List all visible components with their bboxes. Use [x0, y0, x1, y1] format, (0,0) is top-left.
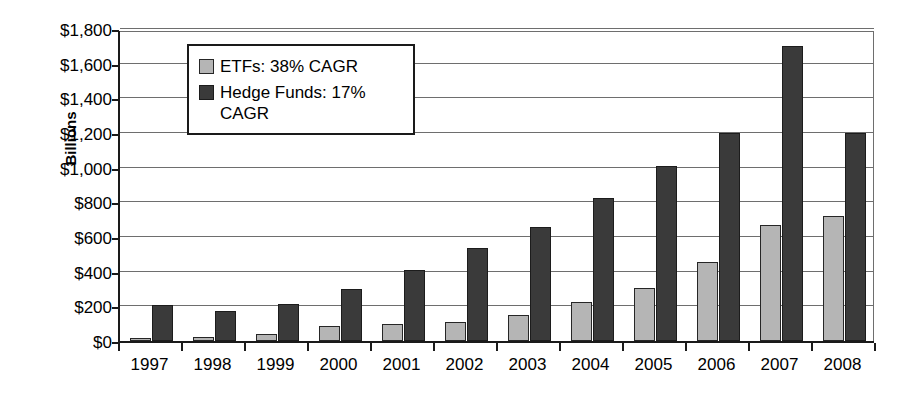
- y-axis-tick-label: $1,600: [16, 56, 112, 76]
- y-axis-tick-label: $1,400: [16, 90, 112, 110]
- x-axis-tick-mark: [748, 343, 750, 351]
- x-axis-tick-mark: [181, 343, 183, 351]
- bar-etfs: [508, 315, 529, 341]
- bar-etfs: [760, 225, 781, 341]
- legend-label-etfs: ETFs: 38% CAGR: [220, 56, 358, 77]
- bar-group: [120, 31, 183, 341]
- bar-hedge-funds: [782, 46, 803, 341]
- legend-label-hedge-funds: Hedge Funds: 17% CAGR: [220, 82, 403, 124]
- bar-etfs: [130, 338, 151, 341]
- bar-hedge-funds: [341, 289, 362, 341]
- bar-group: [624, 31, 687, 341]
- bar-hedge-funds: [152, 305, 173, 341]
- x-axis-tick-label: 2002: [446, 355, 484, 375]
- x-axis-tick-mark: [496, 343, 498, 351]
- y-axis-tick-label: $0: [16, 333, 112, 353]
- x-axis-tick-label: 2005: [635, 355, 673, 375]
- bar-etfs: [256, 334, 277, 341]
- y-axis-tick-label: $800: [16, 194, 112, 214]
- legend-item: Hedge Funds: 17% CAGR: [199, 82, 403, 124]
- bar-hedge-funds: [656, 166, 677, 341]
- bar-hedge-funds: [467, 248, 488, 341]
- bar-group: [561, 31, 624, 341]
- y-axis-tick-label: $1,800: [16, 21, 112, 41]
- y-axis-tick-label: $600: [16, 229, 112, 249]
- x-axis-tick-mark: [244, 343, 246, 351]
- bar-etfs: [445, 322, 466, 341]
- bar-hedge-funds: [278, 304, 299, 341]
- legend-item: ETFs: 38% CAGR: [199, 56, 403, 77]
- x-axis-tick-label: 1999: [257, 355, 295, 375]
- bar-chart: Billions $1,800$1,600$1,400$1,200$1,000$…: [0, 0, 901, 403]
- bar-group: [498, 31, 561, 341]
- bar-hedge-funds: [593, 198, 614, 341]
- x-axis-tick-label: 1997: [131, 355, 169, 375]
- x-axis-tick-label: 2001: [383, 355, 421, 375]
- bar-etfs: [193, 337, 214, 341]
- x-axis-tick-mark: [433, 343, 435, 351]
- bar-group: [750, 31, 813, 341]
- bar-group: [813, 31, 876, 341]
- x-axis-tick-label: 1998: [194, 355, 232, 375]
- bar-etfs: [823, 216, 844, 341]
- bar-etfs: [319, 326, 340, 341]
- bar-hedge-funds: [215, 311, 236, 341]
- x-axis-tick-label: 2007: [761, 355, 799, 375]
- x-axis-tick-label: 2004: [572, 355, 610, 375]
- legend-swatch-etfs: [199, 59, 214, 74]
- y-axis-tick-label: $400: [16, 264, 112, 284]
- x-axis-tick-mark: [370, 343, 372, 351]
- y-axis-tick-label: $200: [16, 298, 112, 318]
- x-axis-tick-mark: [811, 343, 813, 351]
- bar-hedge-funds: [845, 133, 866, 341]
- y-axis-tick-label: $1,200: [16, 125, 112, 145]
- x-axis-tick-mark: [874, 343, 876, 351]
- bar-etfs: [697, 262, 718, 341]
- chart-legend: ETFs: 38% CAGR Hedge Funds: 17% CAGR: [187, 44, 415, 135]
- y-axis-tick-label: $1,000: [16, 160, 112, 180]
- x-axis-tick-mark: [685, 343, 687, 351]
- y-axis-ticks: $1,800$1,600$1,400$1,200$1,000$800$600$4…: [0, 31, 112, 343]
- x-axis-tick-mark: [307, 343, 309, 351]
- gridline: [120, 28, 874, 29]
- x-axis-tick-label: 2003: [509, 355, 547, 375]
- bar-hedge-funds: [530, 227, 551, 341]
- x-axis-tick-mark: [559, 343, 561, 351]
- x-axis-tick-mark: [118, 343, 120, 351]
- bar-group: [687, 31, 750, 341]
- bar-hedge-funds: [719, 133, 740, 341]
- bar-hedge-funds: [404, 270, 425, 341]
- legend-swatch-hedge-funds: [199, 85, 214, 100]
- x-axis-tick-label: 2008: [824, 355, 862, 375]
- bar-etfs: [382, 324, 403, 341]
- x-axis-tick-mark: [622, 343, 624, 351]
- bar-group: [435, 31, 498, 341]
- x-axis-tick-label: 2006: [698, 355, 736, 375]
- bar-etfs: [571, 302, 592, 341]
- bar-etfs: [634, 288, 655, 341]
- x-axis-tick-label: 2000: [320, 355, 358, 375]
